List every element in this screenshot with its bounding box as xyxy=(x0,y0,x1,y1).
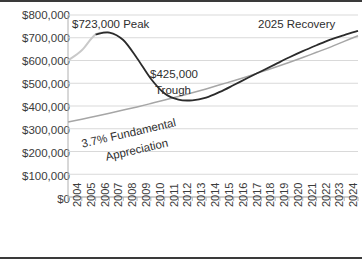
x-axis-label-2022: 2022 xyxy=(321,183,332,207)
x-axis-label-2018: 2018 xyxy=(265,183,276,207)
x-axis-label-2017: 2017 xyxy=(252,183,263,207)
x-axis-label-2014: 2014 xyxy=(210,183,221,207)
series-line-cycle xyxy=(96,31,358,101)
x-axis-label-2016: 2016 xyxy=(238,183,249,207)
plot-area xyxy=(0,0,362,259)
x-axis-label-2005: 2005 xyxy=(86,183,97,207)
x-axis-label-2021: 2021 xyxy=(307,183,318,207)
recovery-annotation: 2025 Recovery xyxy=(258,18,335,31)
x-axis-label-2015: 2015 xyxy=(224,183,235,207)
peak-annotation: $723,000 Peak xyxy=(72,18,149,31)
x-axis-label-2010: 2010 xyxy=(155,183,166,207)
x-axis-label-2024: 2024 xyxy=(348,183,359,207)
x-axis-label-2023: 2023 xyxy=(334,183,345,207)
series-line-cycle-early xyxy=(68,32,109,60)
chart-container: $800,000 $700,000 $600,000 $500,000 $400… xyxy=(0,0,362,259)
x-axis-label-2013: 2013 xyxy=(196,183,207,207)
trough-annotation-amount: $425,000 xyxy=(150,68,198,81)
x-axis-label-2004: 2004 xyxy=(72,183,83,207)
x-axis-label-2011: 2011 xyxy=(169,183,180,207)
gridlines xyxy=(68,15,358,197)
x-axis-label-2009: 2009 xyxy=(141,183,152,207)
x-axis-label-2012: 2012 xyxy=(182,183,193,207)
x-axis-label-2020: 2020 xyxy=(293,183,304,207)
trough-annotation-label: Trough xyxy=(155,84,191,97)
x-axis-label-2006: 2006 xyxy=(100,183,111,207)
x-axis-label-2008: 2008 xyxy=(127,183,138,207)
x-axis-label-2019: 2019 xyxy=(279,183,290,207)
series-line-trend xyxy=(68,36,358,122)
x-axis-label-2007: 2007 xyxy=(113,183,124,207)
